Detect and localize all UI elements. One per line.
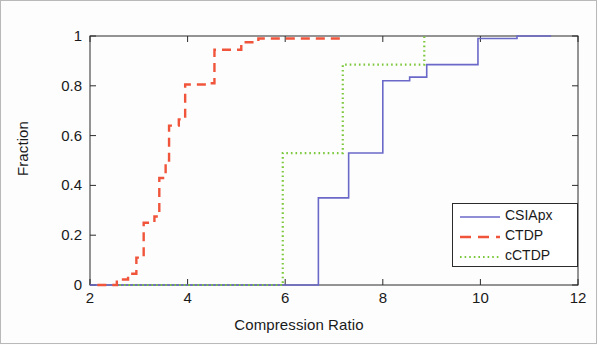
legend-swatch-ctdp: [459, 226, 501, 247]
chart-legend[interactable]: CSIApx CTDP cCTDP: [452, 203, 578, 267]
x-tick-label: 10: [460, 289, 500, 306]
legend-item-cctdp[interactable]: cCTDP: [453, 246, 579, 267]
legend-item-csiapx[interactable]: CSIApx: [453, 206, 579, 227]
series-line-cctdp: [119, 36, 424, 285]
y-tick-label: 0.8: [38, 77, 82, 94]
y-axis-label: Fraction: [14, 94, 31, 204]
y-tick-label: 0.2: [38, 226, 82, 243]
x-tick-label: 6: [265, 289, 305, 306]
legend-label-csiapx: CSIApx: [505, 207, 552, 223]
x-tick-label: 4: [168, 289, 208, 306]
legend-item-ctdp[interactable]: CTDP: [453, 226, 579, 247]
series-line-ctdp: [97, 38, 341, 285]
x-axis-label: Compression Ratio: [0, 316, 598, 333]
y-tick-label: 0: [38, 276, 82, 293]
y-tick-label: 0.4: [38, 176, 82, 193]
y-tick-label: 0.6: [38, 127, 82, 144]
figure-container: Compression Ratio Fraction 24681012 10.8…: [0, 0, 598, 345]
y-tick-label: 1: [38, 27, 82, 44]
legend-label-ctdp: CTDP: [505, 227, 543, 243]
x-tick-label: 8: [363, 289, 403, 306]
legend-swatch-cctdp: [459, 246, 501, 267]
legend-label-cctdp: cCTDP: [505, 247, 550, 263]
legend-swatch-csiapx: [459, 206, 501, 227]
x-tick-label: 12: [558, 289, 598, 306]
